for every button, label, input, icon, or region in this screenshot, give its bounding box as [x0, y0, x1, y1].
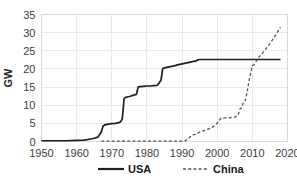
x-tick-label-2010: 2010 [240, 147, 264, 159]
x-tick-label-1980: 1980 [135, 147, 159, 159]
line-chart: 05101520253035 1950196019701980199020002… [0, 0, 297, 187]
x-tick-label-1960: 1960 [64, 147, 88, 159]
legend-label-china: China [213, 163, 244, 175]
x-tick-label-2000: 2000 [205, 147, 229, 159]
x-tick-label-1990: 1990 [170, 147, 194, 159]
y-tick-label-5: 5 [29, 117, 35, 129]
y-axis-title: GW [2, 68, 14, 88]
x-tick-label-1950: 1950 [29, 147, 53, 159]
x-tick-label-1970: 1970 [100, 147, 124, 159]
y-tick-label-25: 25 [23, 45, 35, 57]
chart-container: 05101520253035 1950196019701980199020002… [0, 0, 297, 187]
y-tick-label-15: 15 [23, 81, 35, 93]
x-tick-label-2020: 2020 [275, 147, 297, 159]
legend-label-usa: USA [128, 163, 151, 175]
y-tick-label-10: 10 [23, 99, 35, 111]
y-tick-label-35: 35 [23, 9, 35, 21]
y-tick-label-30: 30 [23, 27, 35, 39]
y-tick-label-20: 20 [23, 63, 35, 75]
